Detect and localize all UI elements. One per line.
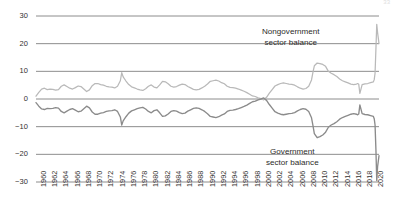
x-tick-1998: 1998 — [253, 171, 262, 187]
x-tick-1978: 1978 — [140, 171, 149, 187]
government-label-line2: sector balance — [266, 158, 319, 169]
y-tick-20: 20 — [6, 39, 28, 48]
x-tick-1980: 1980 — [151, 171, 160, 187]
x-tick-1960: 1960 — [39, 171, 48, 187]
x-tick-1974: 1974 — [118, 171, 127, 187]
series-lines — [36, 24, 379, 180]
x-tick-2004: 2004 — [286, 171, 295, 187]
x-tick-2018: 2018 — [365, 171, 374, 187]
page-number: 33 — [383, 0, 390, 5]
nongovernment-label: Nongovernment sector balance — [262, 27, 320, 48]
x-tick-2012: 2012 — [331, 171, 340, 187]
x-tick-2000: 2000 — [264, 171, 273, 187]
nongovernment-label-line1: Nongovernment — [262, 27, 320, 38]
x-tick-1996: 1996 — [241, 171, 250, 187]
x-tick-1968: 1968 — [84, 171, 93, 187]
sectoral-balances-chart — [0, 0, 394, 221]
y-tick-0: 0 — [6, 94, 28, 103]
series-line-nongovernment — [36, 24, 379, 100]
x-tick-1988: 1988 — [196, 171, 205, 187]
x-tick-1972: 1972 — [106, 171, 115, 187]
x-tick-2008: 2008 — [309, 171, 318, 187]
x-tick-1982: 1982 — [163, 171, 172, 187]
x-tick-1976: 1976 — [129, 171, 138, 187]
x-tick-1964: 1964 — [61, 171, 70, 187]
x-tick-1970: 1970 — [95, 171, 104, 187]
nongovernment-label-line2: sector balance — [262, 38, 320, 49]
series-line-government — [36, 98, 379, 181]
x-tick-1992: 1992 — [219, 171, 228, 187]
y-tick-30: 30 — [6, 11, 28, 20]
x-tick-1966: 1966 — [73, 171, 82, 187]
y-tick-−10: −10 — [6, 122, 28, 131]
chart-figure: 33 3020100−10−20−30 19601962196419661968… — [0, 0, 394, 221]
x-tick-2002: 2002 — [275, 171, 284, 187]
x-tick-1986: 1986 — [185, 171, 194, 187]
x-tick-2010: 2010 — [320, 171, 329, 187]
x-tick-2020: 2020 — [376, 171, 385, 187]
x-tick-1994: 1994 — [230, 171, 239, 187]
y-tick-10: 10 — [6, 66, 28, 75]
x-tick-2006: 2006 — [298, 171, 307, 187]
x-tick-2016: 2016 — [354, 171, 363, 187]
government-label: Government sector balance — [266, 147, 319, 168]
x-tick-1984: 1984 — [174, 171, 183, 187]
x-tick-2014: 2014 — [343, 171, 352, 187]
gridlines — [36, 16, 379, 182]
x-tick-1962: 1962 — [50, 171, 59, 187]
government-label-line1: Government — [266, 147, 319, 158]
x-tick-1990: 1990 — [208, 171, 217, 187]
y-tick-−30: −30 — [6, 177, 28, 186]
y-tick-−20: −20 — [6, 149, 28, 158]
